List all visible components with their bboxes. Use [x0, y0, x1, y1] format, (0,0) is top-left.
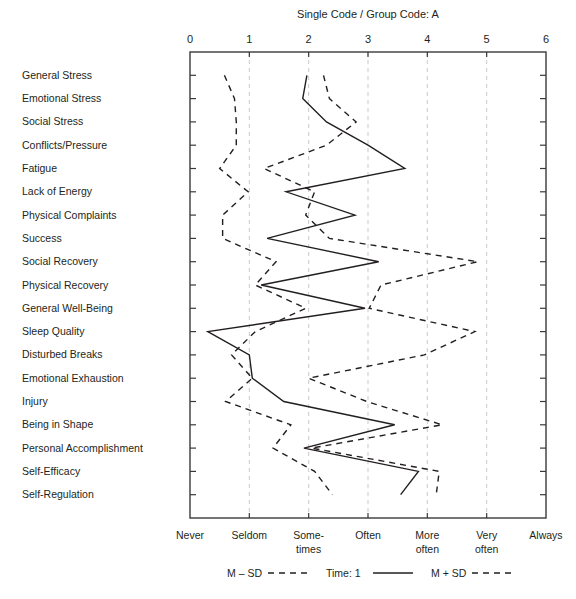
- x-tick-label-1: 1: [246, 33, 252, 45]
- category-label-personal-accomplishment: Personal Accomplishment: [22, 442, 143, 454]
- scale-label-often: Often: [355, 529, 381, 541]
- scale-label-more: More: [415, 529, 439, 541]
- category-label-physical-complaints: Physical Complaints: [22, 209, 117, 221]
- category-label-injury: Injury: [22, 395, 48, 407]
- legend-label-time-1: Time: 1: [326, 567, 361, 579]
- category-label-emotional-stress: Emotional Stress: [22, 92, 101, 104]
- scale-label-some: Some-: [293, 529, 324, 541]
- category-label-success: Success: [22, 232, 62, 244]
- category-label-self-regulation: Self-Regulation: [22, 488, 94, 500]
- category-label-fatigue: Fatigue: [22, 162, 57, 174]
- category-label-disturbed-breaks: Disturbed Breaks: [22, 348, 103, 360]
- category-label-social-stress: Social Stress: [22, 115, 83, 127]
- legend-label-m-sd: M – SD: [227, 567, 262, 579]
- scale-label-very: Very: [476, 529, 498, 541]
- category-label-emotional-exhaustion: Emotional Exhaustion: [22, 372, 124, 384]
- category-label-general-well-being: General Well-Being: [22, 302, 113, 314]
- category-label-general-stress: General Stress: [22, 69, 92, 81]
- scale-label-seldom: Seldom: [232, 529, 268, 541]
- x-tick-label-0: 0: [187, 33, 193, 45]
- recovery-stress-profile-chart: Single Code / Group Code: A 0123456 Gene…: [0, 0, 576, 599]
- scale-label-cont-often: often: [475, 543, 499, 555]
- category-label-being-in-shape: Being in Shape: [22, 418, 93, 430]
- x-tick-label-4: 4: [424, 33, 430, 45]
- category-label-physical-recovery: Physical Recovery: [22, 279, 109, 291]
- x-tick-label-3: 3: [365, 33, 371, 45]
- scale-label-never: Never: [176, 529, 205, 541]
- category-label-self-efficacy: Self-Efficacy: [22, 465, 81, 477]
- category-label-sleep-quality: Sleep Quality: [22, 325, 85, 337]
- scale-label-cont-often: often: [416, 543, 440, 555]
- x-tick-label-6: 6: [543, 33, 549, 45]
- scale-label-cont-times: times: [296, 543, 321, 555]
- legend-label-m-sd: M + SD: [431, 567, 467, 579]
- category-label-conflicts-pressure: Conflicts/Pressure: [22, 139, 107, 151]
- category-label-lack-of-energy: Lack of Energy: [22, 185, 93, 197]
- chart-title: Single Code / Group Code: A: [297, 8, 440, 20]
- x-tick-label-5: 5: [484, 33, 490, 45]
- x-tick-label-2: 2: [306, 33, 312, 45]
- chart-container: Single Code / Group Code: A 0123456 Gene…: [0, 0, 576, 599]
- scale-label-always: Always: [529, 529, 562, 541]
- category-label-social-recovery: Social Recovery: [22, 255, 99, 267]
